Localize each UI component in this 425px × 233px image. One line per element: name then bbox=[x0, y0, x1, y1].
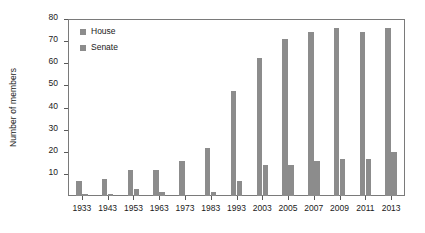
x-axis-tick-label: 1933 bbox=[72, 203, 91, 213]
x-axis-tick-mark bbox=[288, 196, 289, 200]
x-axis-tick-label: 1973 bbox=[175, 203, 194, 213]
bar-senate-1963 bbox=[159, 192, 165, 196]
legend-item-house: House bbox=[80, 25, 118, 38]
x-axis-tick-label: 1963 bbox=[150, 203, 169, 213]
x-axis-tick-label: 2007 bbox=[304, 203, 323, 213]
y-axis-tick-label: 80 bbox=[49, 12, 58, 22]
y-axis-tick-label: 60 bbox=[49, 56, 58, 66]
x-axis-tick-mark bbox=[237, 196, 238, 200]
bar-house-2007 bbox=[308, 32, 314, 196]
y-axis-tick-label: 10 bbox=[49, 167, 58, 177]
bar-senate-1933 bbox=[82, 194, 88, 196]
legend-swatch-icon bbox=[80, 45, 86, 51]
y-axis-tick-label: 40 bbox=[49, 101, 58, 111]
legend-label: Senate bbox=[91, 41, 118, 54]
x-axis-tick-label: 2013 bbox=[382, 203, 401, 213]
bar-senate-1953 bbox=[134, 189, 140, 196]
bar-senate-2011 bbox=[366, 159, 372, 196]
bar-senate-2003 bbox=[263, 165, 269, 196]
bar-house-1963 bbox=[153, 170, 159, 196]
bar-senate-1993 bbox=[237, 181, 243, 196]
bar-house-2005 bbox=[282, 39, 288, 197]
x-axis-tick-mark bbox=[185, 196, 186, 200]
bar-house-2003 bbox=[257, 58, 263, 196]
bar-house-1993 bbox=[231, 91, 237, 196]
y-axis-tick-label: 70 bbox=[49, 34, 58, 44]
bar-senate-2005 bbox=[288, 165, 294, 196]
bar-senate-2009 bbox=[340, 159, 346, 196]
x-axis-tick-mark bbox=[365, 196, 366, 200]
x-axis-tick-label: 2011 bbox=[356, 203, 374, 213]
bar-chart: Number of members 1020304050607080 19331… bbox=[0, 0, 425, 233]
legend-swatch-icon bbox=[80, 29, 86, 35]
y-axis-tick-label: 50 bbox=[49, 78, 58, 88]
x-axis-tick-mark bbox=[340, 196, 341, 200]
x-axis-tick-mark bbox=[133, 196, 134, 200]
y-axis-tick-label: 20 bbox=[49, 145, 58, 155]
bar-house-1973 bbox=[179, 161, 185, 196]
legend-item-senate: Senate bbox=[80, 41, 118, 54]
x-axis-tick-mark bbox=[262, 196, 263, 200]
bar-house-1983 bbox=[205, 148, 211, 196]
x-axis-tick-mark bbox=[108, 196, 109, 200]
y-axis-tick-label: 30 bbox=[49, 123, 58, 133]
bar-house-2011 bbox=[360, 32, 366, 196]
x-axis-tick-label: 1943 bbox=[98, 203, 117, 213]
x-axis-tick-mark bbox=[82, 196, 83, 200]
bar-senate-2007 bbox=[314, 161, 320, 196]
x-axis-tick-label: 2005 bbox=[279, 203, 298, 213]
bar-house-2009 bbox=[334, 28, 340, 196]
x-axis-tick-label: 2009 bbox=[330, 203, 349, 213]
bar-house-1933 bbox=[76, 181, 82, 196]
x-axis-tick-mark bbox=[391, 196, 392, 200]
bar-house-2013 bbox=[385, 28, 391, 196]
bar-house-1943 bbox=[102, 179, 108, 197]
x-axis-tick-mark bbox=[159, 196, 160, 200]
x-axis-tick-mark bbox=[314, 196, 315, 200]
x-axis-tick-label: 1983 bbox=[201, 203, 220, 213]
legend-label: House bbox=[91, 25, 116, 38]
x-axis-tick-label: 2003 bbox=[253, 203, 272, 213]
x-axis-tick-label: 1953 bbox=[124, 203, 143, 213]
bars-layer bbox=[69, 20, 404, 196]
chart-legend: HouseSenate bbox=[80, 25, 118, 57]
bar-house-1953 bbox=[128, 170, 134, 196]
x-axis-tick-mark bbox=[211, 196, 212, 200]
bar-senate-1943 bbox=[108, 194, 114, 196]
bar-senate-2013 bbox=[391, 152, 397, 196]
y-axis-title: Number of members bbox=[6, 19, 20, 196]
x-axis-tick-label: 1993 bbox=[227, 203, 246, 213]
bar-senate-1983 bbox=[211, 192, 217, 196]
